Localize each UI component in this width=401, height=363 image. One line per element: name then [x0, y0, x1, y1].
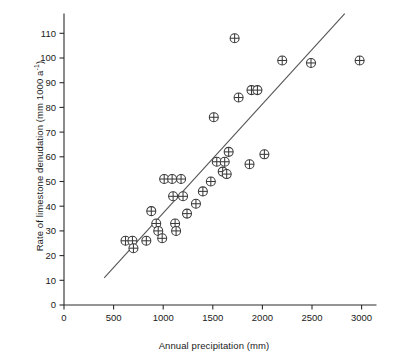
y-tick-label: 20 — [45, 250, 56, 261]
data-point — [245, 160, 254, 169]
data-point — [142, 236, 151, 245]
data-point — [234, 93, 243, 102]
data-point — [220, 157, 229, 166]
regression-line — [104, 14, 345, 278]
y-tick-label: 60 — [45, 151, 56, 162]
y-tick-label: 80 — [45, 102, 56, 113]
y-tick-label: 110 — [41, 28, 56, 39]
x-tick-label: 1000 — [153, 312, 174, 323]
y-tick-label: 70 — [45, 127, 56, 138]
data-point — [307, 58, 316, 67]
y-tick-label: 100 — [40, 52, 56, 63]
data-point — [147, 207, 156, 216]
data-point — [222, 170, 231, 179]
data-point — [172, 226, 181, 235]
data-point — [253, 86, 262, 95]
y-tick-label: 30 — [45, 225, 56, 236]
data-point — [230, 34, 239, 43]
y-tick-label: 0 — [51, 299, 56, 310]
x-tick-label: 2500 — [301, 312, 322, 323]
data-point — [198, 187, 207, 196]
data-point — [260, 150, 269, 159]
data-points — [121, 34, 364, 253]
data-point — [177, 175, 186, 184]
axes: 0102030405060708090100110050010001500200… — [40, 14, 376, 323]
x-tick-label: 500 — [106, 312, 122, 323]
data-point — [278, 56, 287, 65]
y-tick-label: 10 — [45, 275, 56, 286]
x-tick-label: 3000 — [351, 312, 372, 323]
data-point — [169, 192, 178, 201]
data-point — [355, 56, 364, 65]
x-tick-label: 2000 — [252, 312, 273, 323]
y-tick-label: 50 — [45, 176, 56, 187]
data-point — [179, 192, 188, 201]
x-tick-label: 1500 — [202, 312, 223, 323]
scatter-chart: Rate of limestone denudation (mm 1000 a-… — [0, 0, 401, 363]
data-point — [158, 234, 167, 243]
data-point — [191, 199, 200, 208]
data-point — [183, 209, 192, 218]
x-tick-label: 0 — [61, 312, 66, 323]
data-point — [168, 175, 177, 184]
data-point — [209, 113, 218, 122]
y-tick-label: 40 — [45, 201, 56, 212]
data-point — [129, 244, 138, 253]
y-tick-label: 90 — [45, 77, 56, 88]
data-point — [206, 177, 215, 186]
data-point — [224, 147, 233, 156]
plot-area: 0102030405060708090100110050010001500200… — [0, 0, 401, 363]
